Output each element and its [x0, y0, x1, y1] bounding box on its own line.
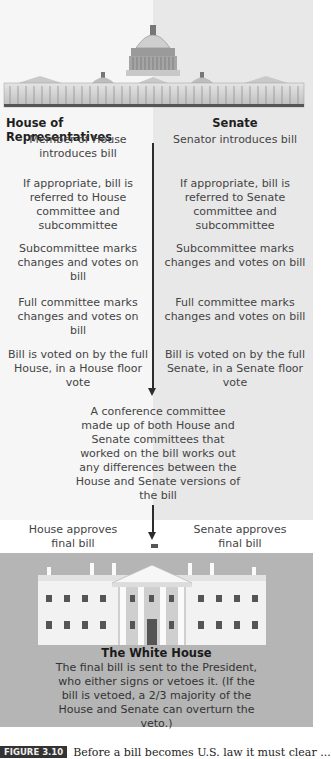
house-approval-step: House approves final bill — [18, 523, 128, 551]
arrow-down-icon — [148, 532, 156, 540]
senate-approval-step: Senate approves final bill — [185, 523, 295, 551]
flow-line-upper — [152, 143, 154, 390]
conference-committee-step: A conference committee made up of both H… — [75, 405, 241, 503]
white-house-description: The final bill is sent to the President,… — [50, 661, 263, 731]
senate-step-full-committee: Full committee marks changes and votes o… — [160, 296, 310, 324]
senate-step-subcommittee: Subcommittee marks changes and votes on … — [160, 242, 310, 270]
senate-step-introduce: Senator introduces bill — [160, 133, 310, 147]
house-step-floor-vote: Bill is voted on by the full House, in a… — [8, 348, 148, 390]
arrow-down-icon — [148, 388, 156, 396]
white-house-panel: The White House The final bill is sent t… — [0, 553, 313, 727]
figure-label: FIGURE 3.10 — [0, 746, 67, 758]
senate-column-title: Senate — [160, 116, 310, 130]
house-step-referred: If appropriate, bill is referred to Hous… — [8, 177, 148, 233]
capitol-building-icon — [0, 20, 313, 110]
white-house-icon — [38, 561, 266, 647]
figure-caption: FIGURE 3.10Before a bill becomes U.S. la… — [0, 746, 318, 758]
house-step-subcommittee: Subcommittee marks changes and votes on … — [8, 242, 148, 284]
flow-line-lower — [152, 505, 154, 533]
house-step-full-committee: Full committee marks changes and votes o… — [8, 296, 148, 338]
white-house-title: The White House — [0, 646, 313, 660]
house-step-introduce: Member of House introduces bill — [8, 133, 148, 161]
senate-step-referred: If appropriate, bill is referred to Sena… — [160, 177, 310, 233]
senate-step-floor-vote: Bill is voted on by the full Senate, in … — [160, 348, 310, 390]
figure-caption-text: Before a bill becomes U.S. law it must c… — [73, 746, 331, 759]
flag-icon — [151, 544, 158, 548]
